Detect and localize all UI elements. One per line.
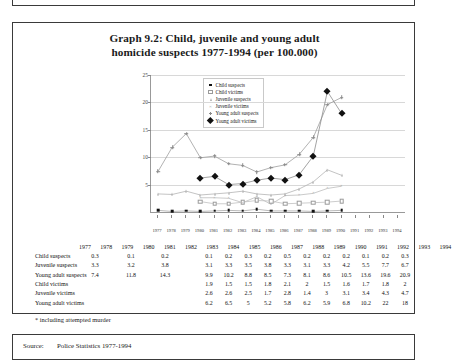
chart-series-lines [151,75,405,212]
table-row-label: Child suspects [35,253,70,259]
table-year-header: 1994 [435,244,455,250]
table-cell: 0.2 [318,253,336,259]
x-axis-tick-label: 1978 [167,228,176,233]
x-axis-tick-mark [355,215,356,218]
table-cell: 3.1 [337,290,355,296]
data-point [283,163,287,167]
x-axis-tick-label: 1991 [350,228,359,233]
table-cell: 3.1 [298,262,316,268]
data-point [325,200,330,205]
x-axis-tick-label: 1983 [237,228,246,233]
x-axis-tick-label: 1984 [251,228,260,233]
table-row-label: Juvenile victims [35,290,75,296]
data-point: × [241,201,244,204]
source-label: Source: [23,342,57,349]
data-point [157,209,160,212]
figure-title-line-1: Graph 9.2: Child, juvenile and young adu… [13,31,416,45]
table-cell: 2.1 [278,281,296,287]
table-cell: 13.6 [357,272,375,278]
x-axis-tick-label: 1982 [223,228,232,233]
data-point: × [227,197,230,200]
data-point [270,194,272,197]
x-axis-tick-mark [298,215,299,218]
table-cell: 0.2 [259,253,277,259]
table-cell: 11.8 [122,272,140,278]
x-axis-tick-mark [228,215,229,218]
source-text: Police Statistics 1977-1994 [57,342,131,349]
table-row-label: Young adult suspects [35,272,87,278]
table-cell: 0.3 [239,253,257,259]
data-point: × [312,192,315,195]
table-cell: 0.1 [122,253,140,259]
table-cell: 1.5 [239,281,257,287]
table-cell: 20.9 [396,272,414,278]
table-cell: 22 [376,300,394,306]
table-cell: 14.3 [156,272,174,278]
x-axis-tick-label: 1989 [322,228,331,233]
table-cell: 3.8 [156,262,174,268]
figure-frame: Graph 9.2: Child, juvenile and young adu… [12,22,415,314]
data-point [199,156,203,160]
table-cell: 0.2 [220,253,238,259]
chart-x-axis-labels: 1977197819791980198119821983198419851986… [150,215,405,233]
data-point [311,136,315,140]
table-cell: 0.5 [278,253,296,259]
table-cell: 0.1 [357,253,375,259]
table-cell: 8.5 [259,272,277,278]
table-cell: 1.5 [220,281,238,287]
data-point [228,191,230,194]
table-cell: 7.7 [376,262,394,268]
table-cell: 4.3 [376,290,394,296]
x-axis-tick-mark [242,215,243,218]
table-cell: 0.3 [396,253,414,259]
table-cell: 6.2 [200,300,218,306]
data-point [242,190,244,193]
x-axis-tick-mark [383,215,384,218]
table-cell: 5.5 [357,262,375,268]
table-cell: 2.6 [200,290,218,296]
x-axis-tick-label: 1981 [209,228,218,233]
table-cell: 0.2 [298,253,316,259]
table-cell: 10.2 [220,272,238,278]
table-cell: 6.5 [220,300,238,306]
table-cell: 18 [396,300,414,306]
table-cell: 9.9 [200,272,218,278]
table-cell: 2.8 [278,290,296,296]
data-point [157,192,159,195]
data-point [213,154,217,158]
data-point: × [297,193,300,196]
table-row: Child victims1.91.51.51.82.121.51.61.71.… [13,278,416,287]
table-cell: 2.6 [220,290,238,296]
table-cell: 0.3 [86,253,104,259]
table-cell: 6.7 [396,262,414,268]
x-axis-tick-mark [185,215,186,218]
data-point: × [199,196,202,199]
table-cell: 8.1 [298,272,316,278]
x-axis-tick-label: 1988 [308,228,317,233]
table-row-label: Child victims [35,281,68,287]
source-line: Source:Police Statistics 1977-1994 [23,342,131,349]
figure-title: Graph 9.2: Child, juvenile and young adu… [13,31,416,59]
table-cell: 8.6 [318,272,336,278]
x-axis-tick-mark [214,215,215,218]
table-cell: 6.2 [298,300,316,306]
data-table: 1977197819791980198119821983198419851986… [13,239,416,306]
x-axis-tick-label: 1986 [279,228,288,233]
table-cell: 3.4 [357,290,375,296]
x-axis-tick-label: 1977 [152,228,161,233]
data-point [312,210,315,213]
table-cell: 1.8 [376,281,394,287]
data-point [212,201,217,206]
table-cell: 8.8 [239,272,257,278]
data-point: × [283,194,286,197]
table-cell: 5.9 [318,300,336,306]
table-cell: 19.6 [376,272,394,278]
x-axis-tick-label: 1987 [294,228,303,233]
x-axis-tick-mark [326,215,327,218]
data-point [184,132,188,136]
table-cell: 10.5 [337,272,355,278]
data-point [341,174,343,177]
table-cell: 3.2 [122,262,140,268]
table-cell: 0.2 [337,253,355,259]
table-cell: 2 [396,281,414,287]
